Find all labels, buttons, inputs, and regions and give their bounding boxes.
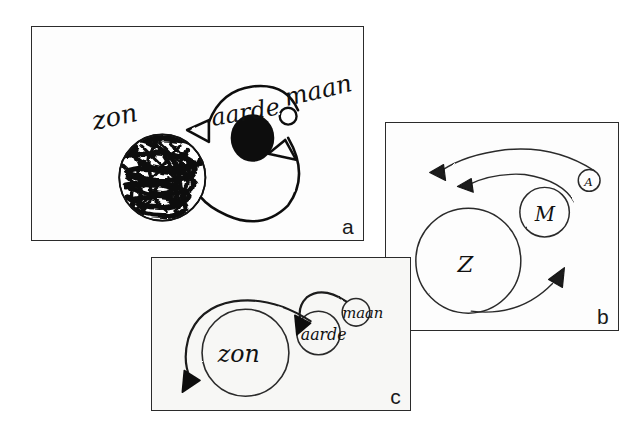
panel-a: zon aarde maan a <box>31 26 364 241</box>
label-a-panel-b: A <box>583 175 593 189</box>
panel-b: Z M A <box>385 122 619 331</box>
label-zon-panel-a: zon <box>88 97 140 136</box>
body-zon-panel-a <box>119 134 205 221</box>
panel-c-letter: c <box>390 385 401 408</box>
body-a-panel-b: A <box>578 170 600 192</box>
label-maan-panel-a: maan <box>281 68 355 112</box>
body-z-panel-b: Z <box>416 208 521 313</box>
label-aarde-panel-c: aarde <box>301 325 347 344</box>
label-m-panel-b: M <box>534 203 556 226</box>
arrow-inner-left-panel-b <box>457 174 574 202</box>
body-zon-panel-c: zon <box>202 309 289 396</box>
panel-c-drawing: zon aarde maan <box>152 258 410 410</box>
panel-b-letter: b <box>597 305 609 328</box>
label-maan-panel-c: maan <box>342 304 383 321</box>
arrow-lower-right-panel-b <box>471 268 564 312</box>
body-m-panel-b: M <box>520 187 570 237</box>
label-zon-panel-c: zon <box>217 340 260 368</box>
label-z-panel-b: Z <box>456 251 474 277</box>
figure-canvas: zon aarde maan a Z M <box>0 0 642 429</box>
panel-b-drawing: Z M A <box>386 123 618 330</box>
body-maan-panel-c: maan <box>342 298 383 326</box>
panel-a-letter: a <box>342 215 354 238</box>
panel-c: zon aarde maan c <box>151 257 411 411</box>
panel-a-drawing: zon aarde maan <box>32 27 363 240</box>
arrow-outer-left-panel-b <box>430 149 594 181</box>
